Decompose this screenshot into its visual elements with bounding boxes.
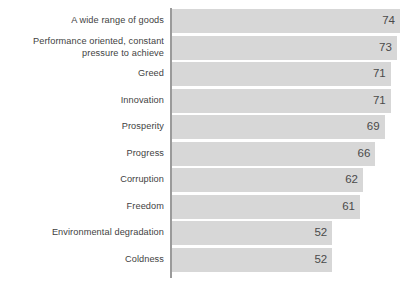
bar-row: Environmental degradation 52	[0, 221, 410, 245]
bar: 71	[172, 62, 391, 86]
bar: 71	[172, 89, 391, 113]
bar-track: 62	[172, 168, 410, 192]
category-label: Greed	[0, 68, 164, 79]
bar: 52	[172, 221, 332, 245]
category-label: Coldness	[0, 254, 164, 265]
category-label: A wide range of goods	[0, 15, 164, 26]
bar-value-label: 69	[367, 121, 380, 133]
bar-value-label: 52	[314, 227, 327, 239]
bar-track: 61	[172, 195, 410, 219]
bar-row: Progress 66	[0, 142, 410, 166]
bar-row: Performance oriented, constant pressure …	[0, 36, 410, 60]
bar-value-label: 71	[373, 95, 386, 107]
bar-track: 74	[172, 9, 410, 33]
bar-row: Corruption 62	[0, 168, 410, 192]
bar-track: 69	[172, 115, 410, 139]
bar: 66	[172, 142, 375, 166]
bar-value-label: 66	[358, 148, 371, 160]
bar: 62	[172, 168, 363, 192]
bar-row: Greed 71	[0, 62, 410, 86]
bar-value-label: 62	[345, 174, 358, 186]
bar: 73	[172, 36, 397, 60]
bar-rows: A wide range of goods 74 Performance ori…	[0, 9, 410, 274]
bar-value-label: 73	[379, 42, 392, 54]
bar-value-label: 61	[342, 201, 355, 213]
bar-row: Innovation 71	[0, 89, 410, 113]
bar-value-label: 74	[382, 15, 395, 27]
bar-row: Prosperity 69	[0, 115, 410, 139]
plot-area: A wide range of goods 74 Performance ori…	[0, 0, 410, 285]
bar-row: A wide range of goods 74	[0, 9, 410, 33]
category-label: Environmental degradation	[0, 227, 164, 238]
bar-track: 73	[172, 36, 410, 60]
bar: 52	[172, 248, 332, 272]
bar-track: 52	[172, 221, 410, 245]
bar: 74	[172, 9, 400, 33]
category-label: Innovation	[0, 95, 164, 106]
bar-track: 66	[172, 142, 410, 166]
category-label: Performance oriented, constant pressure …	[0, 36, 164, 58]
bar-track: 71	[172, 89, 410, 113]
bar-value-label: 52	[314, 254, 327, 266]
bar-row: Coldness 52	[0, 248, 410, 272]
bar-value-label: 71	[373, 68, 386, 80]
category-label: Progress	[0, 148, 164, 159]
bar: 69	[172, 115, 385, 139]
bar: 61	[172, 195, 360, 219]
bar-row: Freedom 61	[0, 195, 410, 219]
category-label: Prosperity	[0, 121, 164, 132]
category-label: Corruption	[0, 174, 164, 185]
category-label: Freedom	[0, 201, 164, 212]
horizontal-bar-chart: A wide range of goods 74 Performance ori…	[0, 0, 410, 285]
bar-track: 71	[172, 62, 410, 86]
bar-track: 52	[172, 248, 410, 272]
